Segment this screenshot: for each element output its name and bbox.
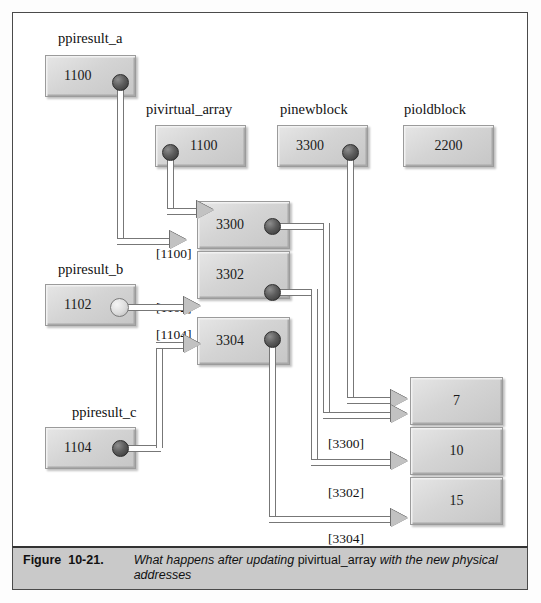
array-cell-1104-value: 3304 (216, 333, 244, 349)
pointer-ball-ppiresult-c (112, 440, 129, 457)
index-label-3302: [3302] (328, 485, 364, 501)
figure-caption-text: What happens after updating pivirtual_ar… (108, 553, 517, 589)
value-pivirtual-array: 1100 (190, 138, 217, 154)
arrowhead-cell-1102 (391, 452, 408, 470)
physical-cell-3302-value: 10 (450, 443, 464, 459)
wire-cell-1102-h1 (276, 289, 316, 296)
wire-pinewblock-v (347, 152, 354, 402)
physical-cell-3304-value: 15 (450, 493, 464, 509)
array-cell-1102-value: 3302 (216, 267, 244, 283)
value-ppiresult-a: 1100 (64, 68, 91, 84)
wire-ppiresult-a-v (117, 82, 124, 242)
diagram-canvas: ppiresult_a 1100 pivirtual_array 1100 pi… (12, 12, 528, 590)
wire-cell-1102-h2 (311, 459, 393, 466)
wire-cell-1104-v (269, 342, 276, 521)
pointer-ball-pinewblock (342, 144, 359, 161)
pointer-ball-pivirtual-array (162, 144, 179, 161)
index-label-3300: [3300] (328, 436, 364, 452)
arrowhead-cell-1104 (391, 509, 408, 527)
figure-number: Figure10-21. (23, 553, 108, 589)
wire-cell-1102-v (311, 289, 318, 464)
wire-pivirtual-array-h (167, 208, 199, 215)
wire-cell-1100-v (323, 223, 330, 417)
array-cell-1100-value: 3300 (216, 217, 244, 233)
arrowhead-ppiresult-c (184, 335, 201, 353)
arrowhead-cell-1100 (391, 405, 408, 423)
pointer-ball-cell-1104 (264, 331, 281, 348)
caption-code: pivirtual_array (298, 553, 377, 567)
pointer-ball-cell-1102 (264, 284, 281, 301)
label-ppiresult-c: ppiresult_c (72, 404, 136, 421)
value-pioldblock: 2200 (435, 138, 463, 154)
value-ppiresult-c: 1104 (64, 440, 91, 456)
label-pivirtual-array: pivirtual_array (146, 101, 232, 118)
value-ppiresult-b: 1102 (64, 297, 91, 313)
arrowhead-ppiresult-a (170, 231, 187, 249)
physical-cell-3304: 15 (410, 477, 503, 525)
wire-ppiresult-b-h (124, 304, 186, 311)
arrowhead-pivirtual-array (197, 201, 214, 219)
label-pioldblock: pioldblock (404, 101, 466, 118)
wire-cell-1104-h (269, 516, 393, 523)
box-pioldblock: 2200 (403, 125, 494, 167)
wire-cell-1100-h1 (276, 223, 328, 230)
label-ppiresult-a: ppiresult_a (58, 30, 122, 47)
pointer-ball-ppiresult-b (110, 298, 129, 317)
physical-cell-3300: 7 (410, 377, 503, 425)
wire-pivirtual-array-v (167, 152, 174, 212)
figure-number-id: 10-21. (61, 553, 103, 567)
figure-diagram: ppiresult_a 1100 pivirtual_array 1100 pi… (0, 0, 541, 603)
figure-caption-bar: Figure10-21. What happens after updating… (12, 546, 528, 590)
arrowhead-ppiresult-b (184, 297, 201, 315)
pointer-ball-cell-1100 (264, 218, 281, 235)
wire-ppiresult-c-v (156, 342, 163, 448)
physical-cell-3302: 10 (410, 427, 503, 475)
label-ppiresult-b: ppiresult_b (58, 261, 123, 278)
wire-ppiresult-a-h (117, 238, 172, 245)
pointer-ball-ppiresult-a (112, 74, 129, 91)
wire-pinewblock-h (347, 397, 393, 404)
label-pinewblock: pinewblock (280, 101, 348, 118)
index-label-3304: [3304] (328, 531, 364, 547)
wire-cell-1100-h2 (323, 412, 393, 419)
physical-cell-3300-value: 7 (453, 393, 460, 409)
figure-number-word: Figure (23, 553, 61, 567)
value-pinewblock: 3300 (296, 138, 324, 154)
caption-pre: What happens after updating (134, 553, 298, 567)
